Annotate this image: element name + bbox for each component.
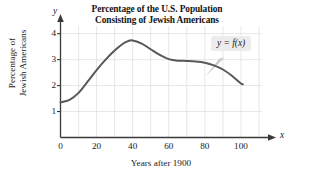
y-tick-label: 4 (44, 28, 56, 38)
y-axis-label-line-1: Percentage of (7, 38, 17, 88)
y-tick-label: 1 (44, 106, 56, 116)
x-axis-label: Years after 1900 (66, 158, 256, 168)
x-tick-label: 100 (230, 141, 252, 151)
chart-title-line-1: Percentage of the U.S. Population (92, 4, 223, 14)
y-axis-label: Percentage of Jewish Americans (7, 13, 29, 113)
x-tick-label: 20 (86, 141, 108, 151)
chart-figure: Percentage of the U.S. Population Consis… (0, 0, 312, 178)
y-axis-label-line-2: Jewish Americans (18, 30, 28, 97)
y-tick-label: 3 (44, 54, 56, 64)
y-tick-label: 2 (44, 80, 56, 90)
chart-title-line-2: Consisting of Jewish Americans (95, 15, 219, 25)
x-tick-label: 60 (158, 141, 180, 151)
chart-title: Percentage of the U.S. Population Consis… (62, 4, 252, 26)
x-axis-variable: x (280, 130, 284, 140)
x-tick-label: 80 (194, 141, 216, 151)
y-axis-variable: y (53, 6, 57, 16)
x-tick-label: 40 (122, 141, 144, 151)
x-axis-arrowhead (268, 134, 276, 141)
callout-leader (206, 58, 225, 77)
series-callout-label: y = f(x) (211, 36, 251, 51)
x-tick-label: 0 (50, 141, 72, 151)
